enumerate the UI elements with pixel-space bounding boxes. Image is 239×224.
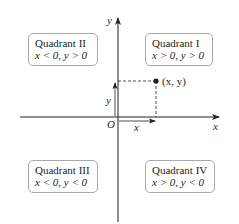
quadrant-i-box: Quadrant I x > 0, y > 0 bbox=[145, 33, 213, 66]
y-component-label: y bbox=[105, 94, 111, 106]
quadrant-iii-condition: x < 0, y < 0 bbox=[35, 176, 97, 188]
quadrant-iv-box: Quadrant IV x > 0, y < 0 bbox=[145, 160, 215, 193]
quadrant-iii-box: Quadrant III x < 0, y < 0 bbox=[28, 160, 98, 193]
quadrant-ii-condition: x < 0, y > 0 bbox=[35, 49, 97, 61]
origin-label: O bbox=[107, 118, 115, 130]
quadrant-iv-title: Quadrant IV bbox=[152, 164, 214, 176]
quadrant-i-title: Quadrant I bbox=[152, 37, 212, 49]
quadrant-iv-condition: x > 0, y < 0 bbox=[152, 176, 214, 188]
x-component-label: x bbox=[133, 121, 139, 133]
quadrant-ii-box: Quadrant II x < 0, y > 0 bbox=[28, 33, 98, 66]
quadrant-iii-title: Quadrant III bbox=[35, 164, 97, 176]
x-axis-label: x bbox=[212, 120, 218, 132]
quadrant-i-condition: x > 0, y > 0 bbox=[152, 49, 212, 61]
point-marker bbox=[153, 78, 158, 83]
point-label: (x, y) bbox=[162, 75, 186, 88]
y-axis-label: y bbox=[106, 14, 112, 26]
quadrant-ii-title: Quadrant II bbox=[35, 37, 97, 49]
